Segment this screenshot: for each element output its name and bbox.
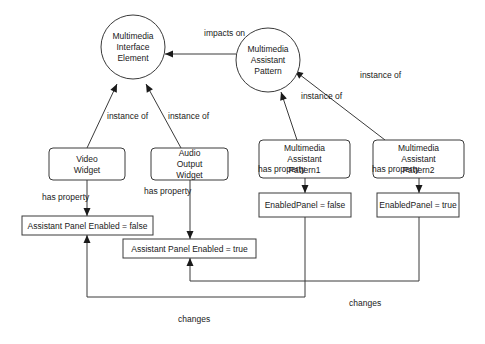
edge-map2-has-property [416,178,423,193]
edge-label: has property [144,186,192,196]
node-label: EnabledPanel = false [265,200,346,210]
edge-label: instance of [168,111,210,121]
node-ep-false: EnabledPanel = false [259,193,351,217]
node-label: Video [76,154,98,164]
arrowhead-icon [302,185,309,193]
edge-map2-instance-of [295,71,385,140]
edge-label: has property [372,164,420,174]
node-label: Assistant [401,154,436,164]
edge-map1-instance-of [280,92,297,140]
edge-map1-has-property [302,178,309,193]
node-label: Assistant [287,154,322,164]
node-video-widget: VideoWidget [49,148,125,180]
arrowhead-icon [146,84,153,93]
node-label: Widget [176,170,203,180]
node-label: Multimedia [112,31,153,41]
node-label: Multimedia [284,143,325,153]
node-label: Multimedia [398,143,439,153]
node-label: Multimedia [247,44,288,54]
edge-label: has property [42,192,90,202]
arrowhead-icon [416,185,423,193]
edge-label: has property [258,164,306,174]
edge-line [295,71,385,140]
arrowhead-icon [84,208,91,216]
node-ep-true: EnabledPanel = true [377,193,459,217]
arrowhead-icon [165,51,173,58]
node-label: Pattern [254,66,282,76]
node-audio-output-widget: AudioOutputWidget [151,148,228,180]
node-ape-true: Assistant Panel Enabled = true [123,239,256,258]
edge-label: impacts on [204,28,245,38]
arrowhead-icon [280,92,287,101]
arrowhead-icon [187,231,194,239]
edge-label: instance of [301,91,343,101]
edge-label: instance of [360,70,402,80]
node-label: Widget [74,165,101,175]
edge-label: changes [349,298,381,308]
node-label: EnabledPanel = true [379,200,457,210]
node-label: Interface [116,42,149,52]
node-mie: MultimediaInterfaceElement [101,15,165,79]
node-label: Assistant Panel Enabled = true [131,244,248,254]
nodes-layer: MultimediaInterfaceElementMultimediaAssi… [22,15,464,258]
diagram-canvas: MultimediaInterfaceElementMultimediaAssi… [0,0,485,344]
edge-label: changes [178,314,210,324]
arrowhead-icon [187,258,194,266]
node-label: Element [117,53,149,63]
node-label: Assistant Panel Enabled = false [28,221,148,231]
node-label: Output [177,159,203,169]
edge-label: instance of [107,111,149,121]
node-label: Assistant [251,55,286,65]
node-label: Audio [179,148,201,158]
node-map: MultimediaAssistantPattern [236,28,300,92]
edge-impacts-on [165,51,236,58]
arrowhead-icon [84,235,91,243]
node-ape-false: Assistant Panel Enabled = false [22,216,153,235]
